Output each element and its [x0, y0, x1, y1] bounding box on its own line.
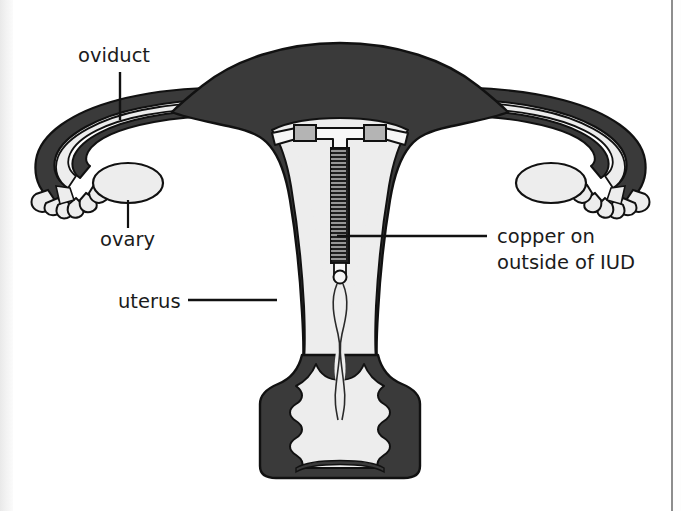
- anatomy-diagram: oviduct ovary uterus copper on outside o…: [0, 0, 681, 511]
- label-uterus: uterus: [118, 290, 181, 313]
- iud-retrieval-ring: [334, 271, 347, 284]
- label-copper-line1: copper on: [497, 225, 595, 248]
- label-ovary: ovary: [100, 228, 155, 251]
- right-ovary: [516, 163, 586, 203]
- left-ovary: [93, 163, 163, 203]
- figure-canvas: oviduct ovary uterus copper on outside o…: [0, 0, 681, 511]
- label-oviduct: oviduct: [78, 44, 150, 67]
- cervix-and-vagina: [260, 352, 420, 478]
- iud-stem: [331, 148, 349, 263]
- label-copper-line2: outside of IUD: [497, 251, 635, 274]
